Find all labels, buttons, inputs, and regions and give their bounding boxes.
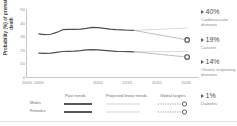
y-tick-20: 20 xyxy=(20,47,25,52)
y-tick-30: 30 xyxy=(20,34,25,39)
chart-legend: Past trends Projected linear trends Glob… xyxy=(30,93,198,119)
stat-label: Cancers xyxy=(201,45,237,50)
stat-value-row: 14% xyxy=(201,58,237,65)
x-tick-2020: 2020 xyxy=(152,80,162,85)
stat-value-row: 19% xyxy=(201,36,237,43)
legend-row-females: Females xyxy=(30,108,198,116)
legend-swatch-projected-females xyxy=(106,109,140,115)
stat-label: Diabetes xyxy=(201,101,237,106)
marker-females-global-target-marker xyxy=(185,55,190,60)
legend-swatch-past-males xyxy=(64,101,92,107)
stat-value: 1% xyxy=(206,92,216,99)
stat-label: Cardiovascular diseases xyxy=(201,17,237,28)
legend-row-label-males: Males xyxy=(30,100,41,105)
legend-swatch-target-females xyxy=(158,109,190,115)
stat-item-cancers: 19% Cancers xyxy=(201,36,237,50)
triangle-right-icon xyxy=(201,60,204,64)
plot-area: 50 40 30 20 10 0 2000 2005 2010 2015 202… xyxy=(26,9,198,78)
cause-of-death-stats: 40% Cardiovascular diseases 19% Cancers … xyxy=(201,0,237,126)
legend-swatch-past-females xyxy=(64,109,92,115)
y-tick-10: 10 xyxy=(20,61,25,66)
stat-value: 40% xyxy=(206,8,220,15)
series-females-global-target xyxy=(134,52,187,57)
stat-item-diabetes: 1% Diabetes xyxy=(201,92,237,106)
triangle-right-icon xyxy=(201,10,204,14)
x-tick-2005: 2005 xyxy=(22,80,32,85)
legend-header-past: Past trends xyxy=(65,93,86,98)
y-tick-40: 40 xyxy=(20,20,25,25)
legend-header-projected: Projected linear trends xyxy=(106,93,147,98)
series-canvas xyxy=(27,9,199,78)
stat-value: 19% xyxy=(206,36,220,43)
chart-page: Probability (%) of premature death 50 40… xyxy=(0,0,237,126)
stat-value-row: 40% xyxy=(201,8,237,15)
y-axis-label: Probability (%) of premature death xyxy=(3,0,14,56)
series-males-projected-linear-trend xyxy=(134,28,187,30)
stat-value-row: 1% xyxy=(201,92,237,99)
x-tick-2000: 2000 xyxy=(34,80,44,85)
series-males-past-trends xyxy=(39,27,134,34)
triangle-right-icon xyxy=(201,38,204,42)
line-chart: Probability (%) of premature death 50 40… xyxy=(0,0,200,126)
stat-item-chronic-respiratory: 14% Chronic respiratory diseases xyxy=(201,58,237,77)
x-tick-2025: 2025 xyxy=(181,80,191,85)
stat-value: 14% xyxy=(206,58,220,65)
x-tick-2015: 2015 xyxy=(122,80,132,85)
series-females-past-trends xyxy=(39,50,134,54)
series-males-global-target xyxy=(134,30,187,40)
stat-label: Chronic respiratory diseases xyxy=(201,67,237,78)
bottom-divider xyxy=(0,121,237,122)
y-tick-50: 50 xyxy=(20,7,25,12)
triangle-right-icon xyxy=(201,94,204,98)
legend-swatch-projected-males xyxy=(106,101,140,107)
marker-males-global-target-marker xyxy=(185,38,190,43)
legend-swatch-target-males xyxy=(158,101,190,107)
x-tick-2010: 2010 xyxy=(93,80,103,85)
stat-item-cardiovascular: 40% Cardiovascular diseases xyxy=(201,8,237,27)
legend-row-label-females: Females xyxy=(30,108,46,113)
legend-header-targets: Global targets xyxy=(160,93,186,98)
